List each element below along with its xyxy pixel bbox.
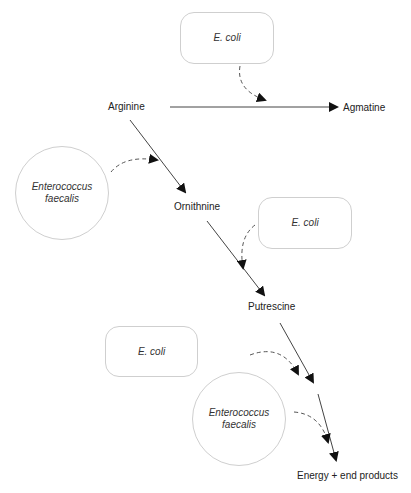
dashed-arrow-efaecalis-left: [111, 159, 157, 172]
compound-energy-end-products: Energy + end products: [297, 470, 398, 481]
efaecalis-bottom-node: Enterococcus faecalis: [192, 372, 286, 466]
ecoli-top-label: E. coli: [213, 32, 240, 44]
compound-putrescine: Putrescine: [248, 301, 295, 312]
arrow-ornithine-putrescine: [207, 221, 264, 295]
ecoli-bottom-node: E. coli: [105, 326, 198, 377]
arrow-arginine-ornithine: [130, 120, 185, 192]
efaecalis-left-label-2: faecalis: [45, 193, 79, 205]
arrow-putrescine-step1: [280, 323, 313, 382]
dashed-arrow-efaecalis-bottom: [294, 412, 328, 442]
efaecalis-left-node: Enterococcus faecalis: [15, 146, 109, 240]
dashed-arrow-ecoli-bottom: [250, 352, 298, 374]
ecoli-top-node: E. coli: [180, 12, 274, 64]
efaecalis-bottom-label-2: faecalis: [222, 419, 256, 431]
compound-ornithine: Ornithnine: [174, 201, 220, 212]
ecoli-mid-node: E. coli: [258, 197, 352, 249]
compound-arginine: Arginine: [108, 101, 145, 112]
efaecalis-bottom-label-1: Enterococcus: [209, 407, 270, 419]
dashed-arrow-ecoli-mid: [242, 225, 255, 268]
dashed-arrow-ecoli-top: [240, 66, 265, 100]
ecoli-mid-label: E. coli: [291, 217, 318, 229]
efaecalis-left-label-1: Enterococcus: [32, 181, 93, 193]
ecoli-bottom-label: E. coli: [138, 346, 165, 358]
compound-agmatine: Agmatine: [343, 102, 385, 113]
